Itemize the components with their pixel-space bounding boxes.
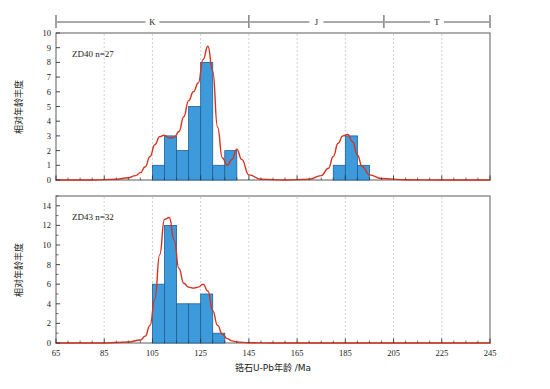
x-tick-label: 145 xyxy=(243,348,256,358)
x-tick-label: 85 xyxy=(100,348,109,358)
panel-zd43: 02468101214 6585105125145165185205225245… xyxy=(13,196,496,358)
plot-frame-zd40 xyxy=(56,33,490,180)
y-tick-label: 10 xyxy=(43,240,52,250)
x-tick-label: 125 xyxy=(194,348,207,358)
histogram-bar xyxy=(201,62,213,180)
x-tick-label: 245 xyxy=(484,348,497,358)
histogram-bar xyxy=(177,151,189,180)
sample-label-zd40: ZD40 n=27 xyxy=(72,49,114,59)
figure-root: KJT 012345678910 ZD40 n=27 相对年龄丰度 024681… xyxy=(0,0,550,389)
y-tick-label: 2 xyxy=(47,318,51,328)
y-tick-label: 0 xyxy=(47,338,51,348)
y-tick-label: 9 xyxy=(47,43,51,53)
x-tick-label: 165 xyxy=(291,348,304,358)
histogram-bar xyxy=(213,165,225,180)
y-tick-label: 7 xyxy=(47,72,51,82)
x-tick-label: 65 xyxy=(52,348,61,358)
x-tick-label: 205 xyxy=(387,348,400,358)
y-tick-label: 12 xyxy=(43,220,52,230)
x-tick-label: 105 xyxy=(146,348,159,358)
y-axis-title-zd43: 相对年龄丰度 xyxy=(13,243,24,297)
y-tick-label: 3 xyxy=(47,131,51,141)
x-tick-label: 225 xyxy=(435,348,448,358)
y-tick-label: 8 xyxy=(47,57,51,67)
x-tick-label: 185 xyxy=(339,348,352,358)
y-tick-label: 2 xyxy=(47,146,51,156)
sample-label-zd43: ZD43 n=32 xyxy=(72,212,114,222)
histogram-bar xyxy=(189,304,201,343)
y-tick-label: 10 xyxy=(43,28,52,38)
y-tick-label: 5 xyxy=(47,102,51,112)
histogram-bar xyxy=(189,107,201,181)
histogram-bar xyxy=(152,284,164,343)
histogram-bar xyxy=(152,165,164,180)
histogram-bar xyxy=(345,136,357,180)
plot-frame-zd43 xyxy=(56,196,490,343)
y-tick-label: 1 xyxy=(47,160,51,170)
histogram-bar xyxy=(165,136,177,180)
histogram-bar xyxy=(177,304,189,343)
panel-zd40: 012345678910 ZD40 n=27 相对年龄丰度 xyxy=(13,28,490,185)
y-axis-title-zd40: 相对年龄丰度 xyxy=(13,80,24,134)
zircon-age-histogram-figure: KJT 012345678910 ZD40 n=27 相对年龄丰度 024681… xyxy=(0,0,550,389)
x-axis-title: 锆石U-Pb年龄 /Ma xyxy=(235,362,311,373)
y-tick-label: 6 xyxy=(47,87,51,97)
y-tick-label: 14 xyxy=(43,201,52,211)
histogram-bar xyxy=(333,165,345,180)
y-tick-label: 0 xyxy=(47,175,51,185)
period-label-K: K xyxy=(149,17,156,27)
period-label-T: T xyxy=(434,17,440,27)
y-tick-label: 8 xyxy=(47,260,51,270)
y-tick-label: 6 xyxy=(47,279,51,289)
